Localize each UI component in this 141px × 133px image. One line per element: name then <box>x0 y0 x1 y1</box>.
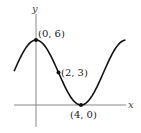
point-label-4-0: (4, 0) <box>70 109 97 120</box>
point-label-2-3: (2, 3) <box>61 67 88 78</box>
chart: x y (0, 6) (2, 3) (4, 0) <box>0 0 141 133</box>
x-axis-label: x <box>128 99 134 110</box>
point-label-0-6: (0, 6) <box>38 28 65 39</box>
point-2-3 <box>57 71 61 75</box>
y-axis-label: y <box>31 3 38 14</box>
point-4-0 <box>79 103 83 107</box>
